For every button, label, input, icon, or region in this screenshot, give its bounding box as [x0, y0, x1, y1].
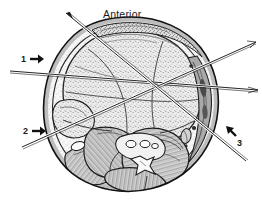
anterior-label: Anterior — [103, 9, 141, 20]
limb-cross-section — [38, 10, 228, 200]
cross-section-figure — [0, 0, 262, 203]
marker-1-arrow — [30, 55, 44, 64]
marker-2-arrow — [32, 127, 46, 136]
marker-label-3: 3 — [237, 139, 242, 148]
marker-3-arrow — [226, 126, 236, 136]
marker-label-2: 2 — [23, 127, 28, 136]
marker-label-1: 1 — [21, 55, 26, 64]
